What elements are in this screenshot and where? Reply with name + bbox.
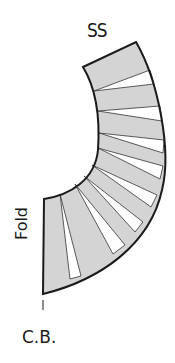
side-seam-label: SS xyxy=(87,19,107,41)
fold-label: Fold xyxy=(12,207,31,240)
center-back-label: C.B. xyxy=(22,327,56,347)
pattern-piece-diagram xyxy=(0,0,175,363)
